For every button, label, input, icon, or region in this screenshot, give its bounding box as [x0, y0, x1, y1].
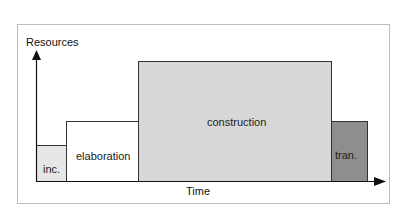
- x-axis-arrow-icon: [374, 177, 386, 186]
- axes: [0, 0, 413, 215]
- y-axis-arrow-icon: [32, 50, 41, 60]
- x-axis-label: Time: [186, 185, 210, 197]
